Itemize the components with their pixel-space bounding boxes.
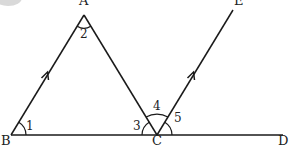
ray-CE bbox=[157, 10, 233, 135]
angle-3-arc bbox=[142, 122, 149, 135]
angle-5-label: 5 bbox=[174, 111, 182, 125]
point-C-label: C bbox=[152, 133, 162, 145]
angle-3-label: 3 bbox=[133, 119, 141, 133]
angle-4-arc bbox=[146, 114, 168, 117]
cropped-marker bbox=[0, 0, 22, 6]
angle-1-label: 1 bbox=[26, 119, 34, 133]
angle-5-arc bbox=[165, 122, 172, 135]
angle-4-label: 4 bbox=[153, 99, 161, 113]
point-A-label: A bbox=[78, 0, 89, 8]
point-B-label: B bbox=[1, 133, 11, 145]
angle-1-arc bbox=[19, 122, 26, 135]
angle-2-label: 2 bbox=[80, 27, 88, 41]
point-E-label: E bbox=[234, 0, 244, 8]
geometry-diagram: 1 2 3 4 5 A B C D E bbox=[0, 0, 296, 145]
point-D-label: D bbox=[278, 133, 288, 145]
